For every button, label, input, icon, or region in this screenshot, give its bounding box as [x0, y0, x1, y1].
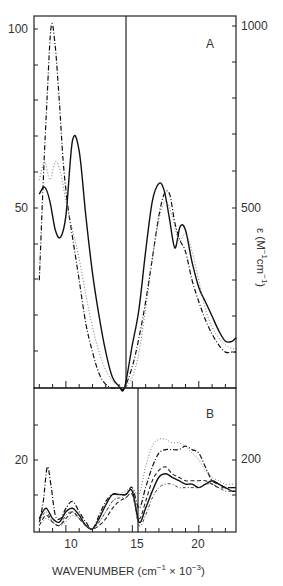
panel-b-label: B	[206, 407, 214, 421]
a-left-tick-50: 50	[15, 201, 29, 215]
y-axis-title-epsilon: ε (M−1cm−1)	[255, 228, 269, 287]
a-right-tick-1000: 1000	[241, 19, 268, 33]
b-right-tick-200: 200	[241, 452, 261, 466]
series-dash-dot	[39, 23, 236, 389]
x-axis-title: WAVENUMBER (cm−1 × 10−3)	[52, 563, 205, 577]
panel-a-curves	[39, 23, 236, 391]
series-solid	[39, 135, 236, 391]
b-left-tick-20: 20	[15, 453, 29, 467]
panel-a-label: A	[206, 37, 214, 51]
x-tick-10: 10	[64, 537, 78, 551]
a-left-tick-100: 100	[8, 22, 28, 36]
axis-ticks	[34, 26, 236, 532]
spectra-figure: 100 50 1000 500 20 200 A B 10 15 20 WAVE…	[0, 0, 283, 586]
x-tick-20: 20	[191, 537, 205, 551]
series-dotted	[39, 162, 236, 389]
a-right-tick-500: 500	[241, 201, 261, 215]
x-tick-15: 15	[130, 537, 144, 551]
